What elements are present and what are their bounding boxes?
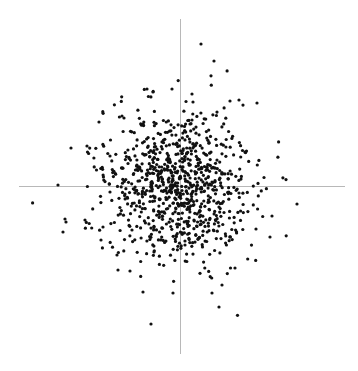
data-point (142, 202, 145, 205)
data-point (254, 227, 257, 230)
data-point (162, 190, 165, 193)
data-point (149, 181, 152, 184)
data-point (215, 202, 218, 205)
data-point (162, 202, 165, 205)
data-point (184, 100, 187, 103)
data-point (144, 153, 147, 156)
data-point (185, 179, 188, 182)
data-point (178, 242, 181, 245)
data-point (138, 117, 141, 120)
data-point (202, 174, 205, 177)
data-point (136, 109, 139, 112)
data-point (147, 136, 150, 139)
data-point (172, 248, 175, 251)
data-point (239, 219, 242, 222)
data-point (236, 188, 239, 191)
data-point (151, 243, 154, 246)
data-point (111, 246, 114, 249)
data-point (186, 225, 189, 228)
data-point (190, 92, 193, 95)
data-point (183, 174, 186, 177)
data-point (185, 208, 188, 211)
data-point (205, 240, 208, 243)
data-point (262, 176, 265, 179)
data-point (119, 212, 122, 215)
data-point (227, 191, 230, 194)
data-point (181, 160, 184, 163)
data-point (85, 144, 88, 147)
data-point (181, 231, 184, 234)
data-point (224, 117, 227, 120)
data-point (102, 173, 105, 176)
data-point (195, 115, 198, 118)
data-point (233, 266, 236, 269)
data-point (190, 195, 193, 198)
data-point (181, 149, 184, 152)
data-point (216, 230, 219, 233)
data-point (165, 186, 168, 189)
data-point (202, 122, 205, 125)
data-point (201, 234, 204, 237)
data-point (185, 253, 188, 256)
data-point (186, 119, 189, 122)
data-point (111, 171, 114, 174)
data-point (250, 244, 253, 247)
data-point (168, 190, 171, 193)
data-point (200, 202, 203, 205)
data-point (204, 169, 207, 172)
data-point (160, 236, 163, 239)
data-point (174, 171, 177, 174)
data-point (114, 153, 117, 156)
data-point (155, 228, 158, 231)
data-point (188, 216, 191, 219)
data-point (214, 138, 217, 141)
data-point (234, 228, 237, 231)
data-point (135, 158, 138, 161)
data-point (195, 225, 198, 228)
data-point (155, 148, 158, 151)
data-point (135, 225, 138, 228)
data-point (215, 159, 218, 162)
data-point (214, 167, 217, 170)
data-point (196, 184, 199, 187)
data-point (123, 238, 126, 241)
data-point (160, 226, 163, 229)
data-point (147, 171, 150, 174)
data-point (237, 191, 240, 194)
data-point (176, 225, 179, 228)
data-point (188, 164, 191, 167)
data-point (173, 197, 176, 200)
data-point (183, 155, 186, 158)
data-point (203, 225, 206, 228)
data-point (177, 79, 180, 82)
data-point (260, 189, 263, 192)
data-point (197, 177, 200, 180)
data-point (90, 226, 93, 229)
data-point (224, 155, 227, 158)
data-point (139, 275, 142, 278)
data-point (139, 226, 142, 229)
data-point (143, 207, 146, 210)
data-point (121, 182, 124, 185)
data-point (126, 196, 129, 199)
data-point (163, 212, 166, 215)
data-point (169, 123, 172, 126)
data-point (246, 191, 249, 194)
data-point (145, 178, 148, 181)
data-point (153, 142, 156, 145)
data-point (225, 138, 228, 141)
data-point (184, 171, 187, 174)
data-point (113, 103, 116, 106)
data-point (169, 254, 172, 257)
data-point (175, 223, 178, 226)
data-point (158, 230, 161, 233)
data-point (61, 230, 64, 233)
data-point (213, 180, 216, 183)
data-point (215, 111, 218, 114)
data-point (186, 135, 189, 138)
data-point (122, 116, 125, 119)
data-point (147, 95, 150, 98)
data-point (188, 141, 191, 144)
data-point (237, 98, 240, 101)
data-point (143, 88, 146, 91)
